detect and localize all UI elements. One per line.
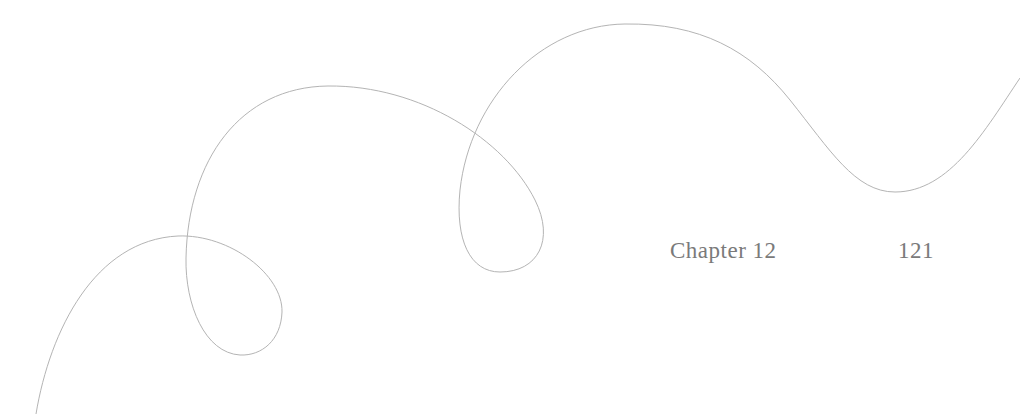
- swirl-curve: [36, 24, 1020, 414]
- chapter-label: Chapter 12: [670, 238, 777, 264]
- swirl-line-ornament-icon: [0, 0, 1020, 414]
- page-number: 121: [898, 238, 934, 264]
- book-page-header: Chapter 12 121: [0, 0, 1020, 414]
